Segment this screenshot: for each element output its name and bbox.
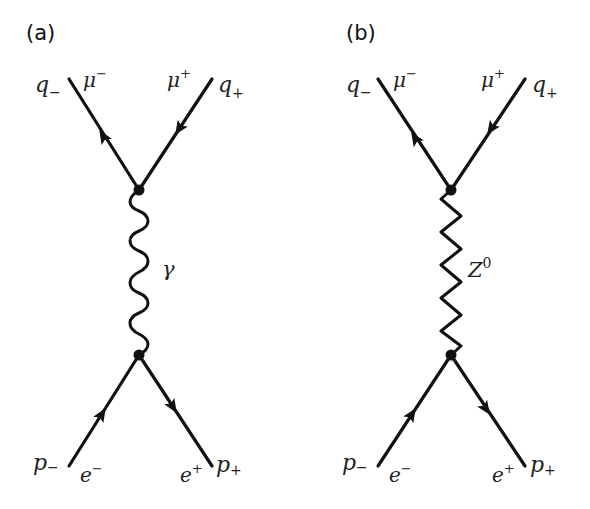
muon-plus-line (451, 79, 525, 190)
arrow-icon-electron (93, 405, 111, 423)
particle-label-e-plus: e+ (180, 461, 203, 487)
particle-label-e-minus: e− (389, 461, 412, 487)
particle-label-mu-plus: μ+ (481, 66, 505, 92)
panel-label-b: (b) (346, 21, 376, 45)
vertex-top (134, 185, 145, 196)
photon-propagator (130, 190, 148, 355)
particle-label-mu-plus: μ+ (167, 66, 191, 92)
momentum-label-q-plus: q+ (218, 72, 244, 101)
particle-label-mu-minus: μ− (393, 66, 417, 92)
panel-label-a: (a) (26, 21, 55, 45)
vertex-bottom (134, 350, 145, 361)
momentum-label-p-plus: p+ (216, 452, 242, 478)
feynman-diagrams-figure: (a) γ q− μ− μ+ q+ p− e− e+ p+ (b) (0, 0, 590, 509)
momentum-label-p-plus: p+ (530, 452, 556, 478)
momentum-label-q-minus: q− (35, 72, 61, 100)
momentum-label-p-minus: p− (342, 450, 368, 475)
momentum-label-q-plus: q+ (532, 72, 558, 101)
particle-label-e-minus: e− (80, 461, 103, 487)
z-boson-propagator (441, 190, 461, 355)
particle-label-mu-minus: μ− (83, 66, 107, 92)
panel-a: (a) γ q− μ− μ+ q+ p− e− e+ p+ (26, 21, 244, 487)
vertex-bottom (446, 350, 457, 361)
momentum-label-p-minus: p− (33, 450, 59, 475)
propagator-label-gamma: γ (162, 257, 175, 281)
particle-label-e-plus: e+ (492, 461, 515, 487)
vertex-top (446, 185, 457, 196)
panel-b: (b) Z0 q− μ− μ+ q+ p− e− e+ p+ (342, 21, 558, 487)
propagator-label-z0: Z0 (467, 255, 492, 282)
momentum-label-q-minus: q− (346, 72, 372, 100)
